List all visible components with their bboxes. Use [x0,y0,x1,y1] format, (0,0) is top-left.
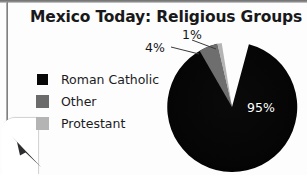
pie-slice-roman-catholic [167,44,297,172]
legend-label-roman-catholic: Roman Catholic [61,72,159,87]
callout-roman-catholic: 95% [247,100,275,115]
legend-label-other: Other [61,94,97,109]
legend-item-roman-catholic: Roman Catholic [36,68,159,90]
callout-protestant: 1% [182,27,202,42]
legend-swatch-icon-roman-catholic [36,73,49,86]
legend-swatch-icon-other [36,95,49,108]
chart-figure: Mexico Today: Religious Groups 4% 1% 95%… [0,0,307,175]
legend-swatch-icon-protestant [36,117,49,130]
chart-legend: Roman Catholic Other Protestant [36,68,159,134]
callout-other: 4% [145,40,165,55]
leader-line-other [171,47,199,54]
legend-item-other: Other [36,90,159,112]
legend-label-protestant: Protestant [61,116,125,131]
legend-item-protestant: Protestant [36,112,159,134]
